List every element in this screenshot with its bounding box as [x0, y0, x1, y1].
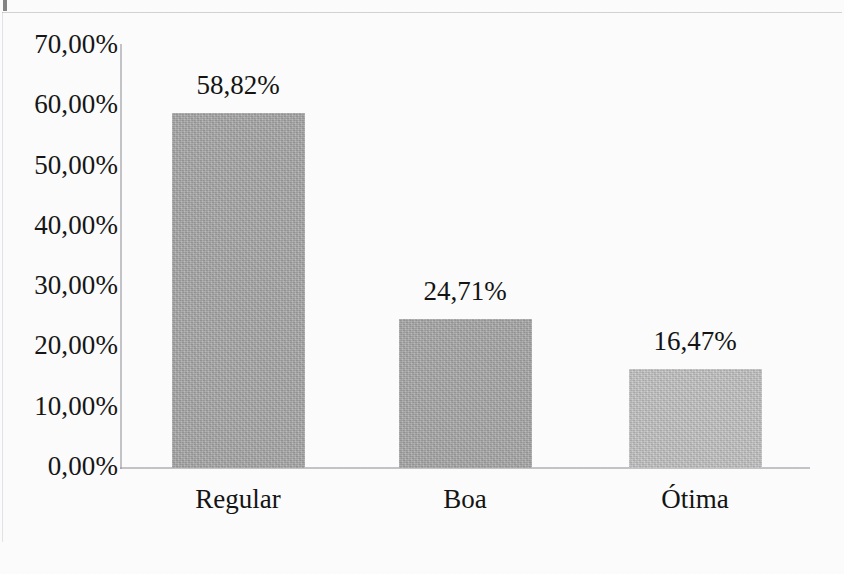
chart-page: 70,00%60,00%50,00%40,00%30,00%20,00%10,0…: [0, 0, 844, 574]
y-axis-tick-label: 70,00%: [6, 31, 118, 58]
bar-value-label: 24,71%: [355, 278, 575, 305]
y-axis-tick-label: 30,00%: [6, 272, 118, 299]
bar-fill: [399, 319, 532, 468]
y-axis-tick-label: 0,00%: [6, 453, 118, 480]
x-axis-category-label: Regular: [128, 486, 348, 513]
bar: [399, 319, 532, 468]
x-axis-category-label: Boa: [355, 486, 575, 513]
y-axis-tick-label: 50,00%: [6, 152, 118, 179]
y-axis-tick-label: 20,00%: [6, 332, 118, 359]
bar-fill: [172, 113, 305, 468]
y-axis-tick-label: 10,00%: [6, 393, 118, 420]
bar: [629, 369, 762, 468]
bar-fill: [629, 369, 762, 468]
y-axis-tick-label: 40,00%: [6, 212, 118, 239]
bar: [172, 113, 305, 468]
x-axis-category-label: Ótima: [585, 486, 805, 513]
bar-chart-plot-area: 70,00%60,00%50,00%40,00%30,00%20,00%10,0…: [0, 0, 844, 574]
y-axis-tick-label: 60,00%: [6, 91, 118, 118]
bar-value-label: 58,82%: [128, 72, 348, 99]
bar-value-label: 16,47%: [585, 328, 805, 355]
y-axis-line: [120, 44, 122, 469]
